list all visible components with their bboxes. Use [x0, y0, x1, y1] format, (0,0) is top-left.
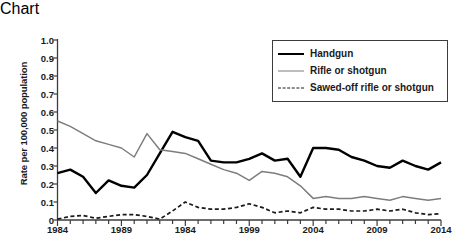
- legend-item-handgun: Handgun: [278, 45, 442, 62]
- x-tick-label: 1984: [47, 224, 68, 235]
- line-chart: Rate per 100,000 population 1.00.90.80.7…: [0, 18, 458, 236]
- legend-label-handgun: Handgun: [310, 49, 353, 59]
- rifle-line-swatch-icon: [278, 66, 304, 76]
- x-tick-label: 1989: [111, 224, 132, 235]
- series-line-handgun: [58, 132, 442, 193]
- legend-label-sawed-off-rifle-or-shotgun: Sawed-off rifle or shotgun: [310, 83, 434, 93]
- series-line-rifle-or-shotgun: [58, 121, 442, 200]
- handgun-line-swatch-icon: [278, 49, 304, 59]
- sawed-off-line-swatch-icon: [278, 83, 304, 93]
- chart-legend: Handgun Rifle or shotgun Sawed-off rifle…: [272, 40, 448, 102]
- legend-item-sawed-off-rifle-or-shotgun: Sawed-off rifle or shotgun: [278, 79, 442, 96]
- series-line-sawed-off-rifle-or-shotgun: [58, 202, 442, 219]
- x-tick-label: 2004: [303, 224, 324, 235]
- legend-label-rifle-or-shotgun: Rifle or shotgun: [310, 66, 387, 76]
- x-axis-tick-labels: 1984198919841999200420092014: [0, 224, 458, 236]
- x-tick-label: 2014: [430, 224, 451, 235]
- x-tick-label: 2009: [367, 224, 388, 235]
- x-tick-label: 1984: [175, 224, 196, 235]
- x-tick-label: 1999: [239, 224, 260, 235]
- legend-item-rifle-or-shotgun: Rifle or shotgun: [278, 62, 442, 79]
